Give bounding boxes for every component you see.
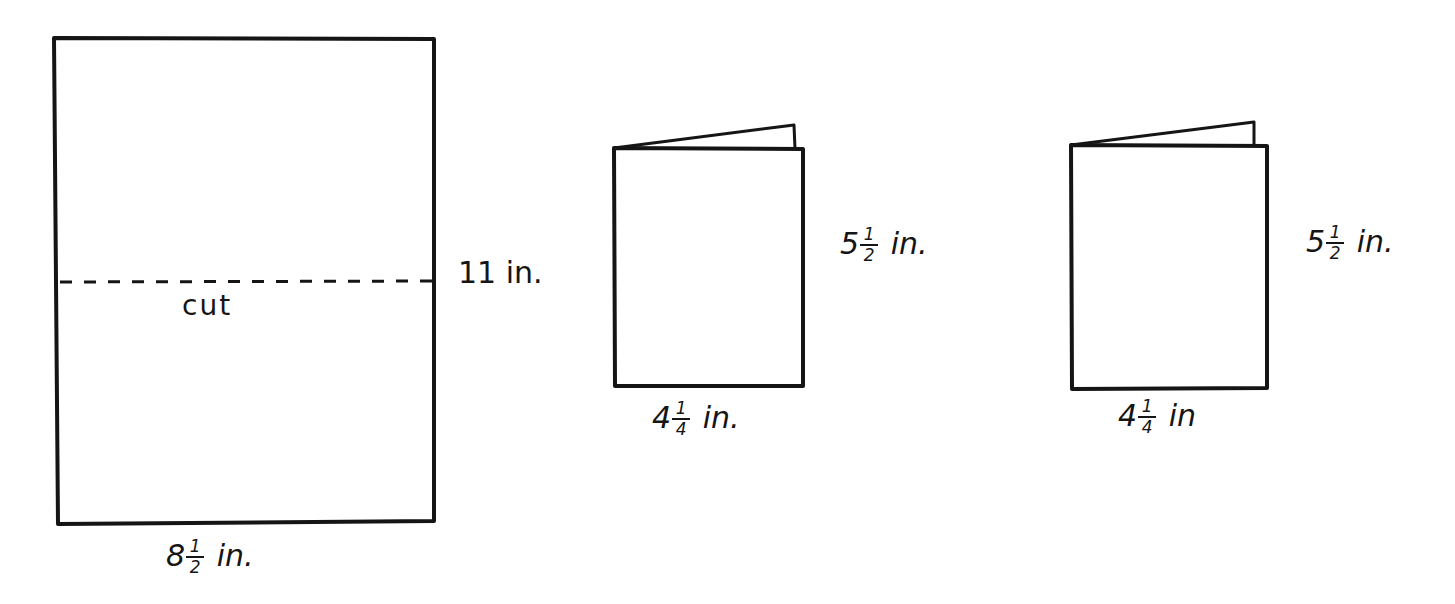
denominator: 4 bbox=[1142, 419, 1153, 436]
numerator: 1 bbox=[1142, 398, 1153, 415]
cut-line bbox=[60, 281, 432, 282]
fraction: 12 bbox=[1326, 224, 1344, 262]
denominator: 2 bbox=[190, 559, 201, 576]
denominator: 2 bbox=[1330, 245, 1341, 262]
booklet-2-width-label: 414 in bbox=[1118, 398, 1196, 436]
booklet-2-height-label: 512 in. bbox=[1306, 224, 1394, 262]
whole-number: 5 bbox=[1306, 224, 1325, 259]
whole-number: 4 bbox=[652, 400, 671, 435]
denominator: 4 bbox=[676, 421, 687, 438]
booklet-1 bbox=[614, 125, 803, 386]
unit: in. bbox=[703, 400, 740, 435]
booklet-1-height-label: 512 in. bbox=[840, 226, 928, 264]
whole-number: 4 bbox=[1118, 398, 1137, 433]
booklet-1-width-label: 414 in. bbox=[652, 400, 740, 438]
unit: in. bbox=[891, 226, 928, 261]
whole-number: 5 bbox=[840, 226, 859, 261]
cut-line-label: cut bbox=[182, 292, 232, 320]
numerator: 1 bbox=[864, 226, 875, 243]
unit: in. bbox=[1357, 224, 1394, 259]
height-text: 11 in. bbox=[458, 255, 543, 290]
full-sheet-height-label: 11 in. bbox=[458, 258, 543, 288]
numerator: 1 bbox=[1330, 224, 1341, 241]
full-sheet-width-label: 812 in. bbox=[166, 538, 254, 576]
unit: in. bbox=[217, 538, 254, 573]
whole-number: 8 bbox=[166, 538, 185, 573]
booklet-2 bbox=[1071, 122, 1267, 389]
fraction: 14 bbox=[672, 400, 690, 438]
numerator: 1 bbox=[190, 538, 201, 555]
numerator: 1 bbox=[676, 400, 687, 417]
fraction: 14 bbox=[1138, 398, 1156, 436]
unit: in bbox=[1169, 398, 1196, 433]
fraction: 12 bbox=[860, 226, 878, 264]
fraction: 12 bbox=[186, 538, 204, 576]
denominator: 2 bbox=[864, 247, 875, 264]
